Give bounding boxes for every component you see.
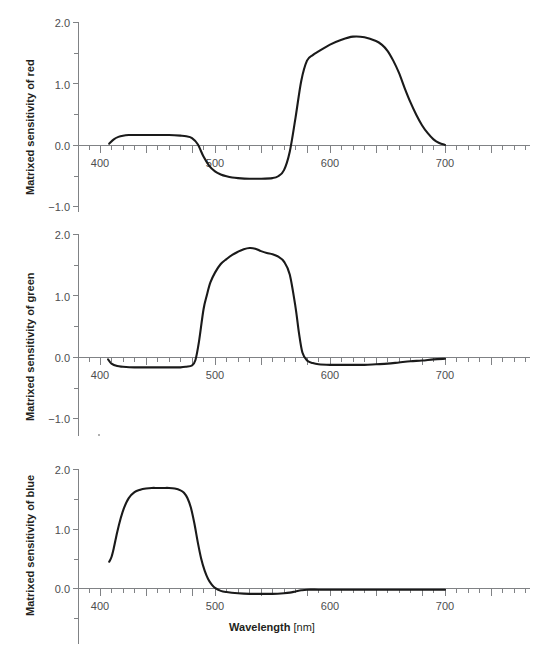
x-axis-title: Wavelength [nm] <box>229 621 315 633</box>
y-axis-ticks-blue <box>73 470 79 619</box>
y-axis-label-green: Matrixed sensitivity of green <box>24 272 36 421</box>
x-tick-label-500-blue: 500 <box>206 600 224 612</box>
data-curve-blue <box>109 488 445 594</box>
y-tick-label--1.0: −1.0 <box>48 201 70 213</box>
x-tick-label-600-red: 600 <box>321 157 339 169</box>
chart-svg-red: Matrixed sensitivity of red 2.0 1.0 0.0 … <box>0 0 540 216</box>
x-tick-label-400-green: 400 <box>91 369 109 381</box>
chart-svg-green: Matrixed sensitivity of green 2.0 1.0 0.… <box>0 216 540 438</box>
x-tick-label-600-blue: 600 <box>321 600 339 612</box>
y-tick-label-0.0: 0.0 <box>55 352 70 364</box>
chart-panel-green: Matrixed sensitivity of green 2.0 1.0 0.… <box>0 216 540 438</box>
y-tick-label-2.0: 2.0 <box>55 229 70 241</box>
x-tick-label-600-green: 600 <box>321 369 339 381</box>
y-tick-label-2.0: 2.0 <box>55 464 70 476</box>
x-tick-label-500-green: 500 <box>206 369 224 381</box>
x-axis-title-main: Wavelength <box>229 621 291 633</box>
y-tick-label-1.0: 1.0 <box>55 524 70 536</box>
y-tick-label--1.0: −1.0 <box>48 413 70 425</box>
figure-root: Matrixed sensitivity of red 2.0 1.0 0.0 … <box>0 0 540 648</box>
y-axis-label-blue: Matrixed sensitivity of blue <box>24 475 36 616</box>
chart-svg-blue: Matrixed sensitivity of blue 2.0 1.0 0.0 <box>0 438 540 648</box>
data-curve-green <box>108 248 445 367</box>
y-tick-label-1.0: 1.0 <box>55 79 70 91</box>
y-tick-label-1.0: 1.0 <box>55 291 70 303</box>
stray-speck <box>98 434 100 436</box>
data-curve-red <box>109 36 445 178</box>
y-tick-label-2.0: 2.0 <box>55 17 70 29</box>
x-axis-title-unit: [nm] <box>293 621 314 633</box>
x-tick-label-700-blue: 700 <box>436 600 454 612</box>
x-tick-label-700-red: 700 <box>436 157 454 169</box>
x-tick-label-400-red: 400 <box>91 157 109 169</box>
chart-panel-red: Matrixed sensitivity of red 2.0 1.0 0.0 … <box>0 0 540 216</box>
x-axis-ticks-red <box>89 146 525 154</box>
y-axis-ticks-red <box>73 23 79 207</box>
y-axis-label-red: Matrixed sensitivity of red <box>24 59 36 195</box>
y-tick-label-0.0: 0.0 <box>55 583 70 595</box>
y-tick-label-0.0: 0.0 <box>55 140 70 152</box>
x-tick-label-400-blue: 400 <box>91 600 109 612</box>
chart-panel-blue: Matrixed sensitivity of blue 2.0 1.0 0.0 <box>0 438 540 648</box>
x-tick-label-500-red: 500 <box>206 157 224 169</box>
x-tick-label-700-green: 700 <box>436 369 454 381</box>
y-axis-ticks-green <box>73 235 79 419</box>
